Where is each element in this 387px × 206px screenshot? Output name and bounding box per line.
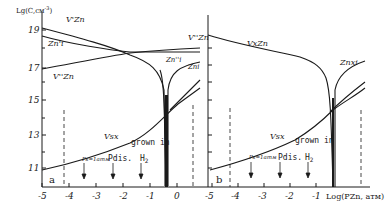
label-vsx-b: Vsx: [270, 132, 285, 141]
x-axis-label: Log(PZn, атм): [326, 192, 384, 201]
ytick-15: 15: [28, 95, 40, 105]
ytick-13: 13: [28, 130, 40, 140]
label-vsx-a: Vsx: [104, 132, 119, 141]
label-ps-b: Ps=1атм: [248, 154, 277, 160]
label-vzn-prime: V'Zn: [66, 15, 85, 24]
label-pdis-a: Pdis.: [108, 154, 132, 163]
label-vzn-dprime-right: V''Zn: [188, 33, 209, 42]
y-axis-label: Lg(C,см-3): [16, 5, 52, 15]
arrow-ps-a: [82, 163, 86, 179]
xtick-b-m1: -1: [312, 191, 321, 201]
ytick-17: 17: [28, 63, 40, 73]
xtick-a-m1: -1: [146, 191, 155, 201]
label-vzn-dprime-left: V''Zn: [53, 72, 74, 81]
arrow-pdis-b: [278, 162, 282, 178]
x-ticks-a: [42, 183, 177, 187]
curve-vznx: [208, 35, 333, 187]
arrow-pdis-a: [111, 163, 115, 179]
label-pdis-b: Pdis.: [278, 153, 302, 162]
ytick-19: 19: [28, 25, 40, 35]
label-grown-in-b: grown in: [295, 136, 334, 145]
xtick-a-m2: -2: [119, 191, 128, 201]
curve-znix: [335, 61, 365, 187]
panel-label-b: b: [216, 174, 222, 185]
xtick-b-m2: -2: [285, 191, 294, 201]
xtick-a-m3: -3: [92, 191, 101, 201]
panel-b: -5 -4 -3 -2 -1 Log(PZn, атм) VxZn Znxi V…: [200, 15, 384, 201]
curve-zni-dprime: [168, 62, 200, 186]
xtick-b-m3: -3: [258, 191, 267, 201]
label-zni-dprime: Zn''i: [165, 56, 181, 64]
label-ps-a: Ps=1атм: [81, 156, 110, 162]
label-h2-a: H2: [140, 154, 149, 164]
arrow-h2-a: [139, 163, 143, 179]
curve-zni: [170, 80, 200, 110]
xtick-b-m4: -4: [231, 191, 240, 201]
ytick-11: 11: [28, 163, 39, 173]
panel-label-a: a: [49, 174, 55, 185]
defect-concentration-figure: 19 17 15 13 11 Lg(C,см-3) -5 -4 -3 -2 -1…: [0, 0, 387, 206]
x-ticks-b: [212, 183, 316, 187]
label-zni-prime: Zn'i: [47, 39, 64, 48]
panel-a: 19 17 15 13 11 Lg(C,см-3) -5 -4 -3 -2 -1…: [16, 5, 209, 201]
arrow-h2-b: [306, 162, 310, 178]
label-zni: Zni: [187, 63, 200, 71]
xtick-a-0: 0: [174, 191, 180, 201]
xtick-b-m5: -5: [205, 191, 214, 201]
label-znix: Znxi: [339, 58, 358, 67]
y-ticks: [42, 30, 46, 168]
label-h2-b: H2: [305, 153, 314, 163]
y-ticks-b: [208, 48, 212, 168]
curve-vzn-cusp-left: [160, 70, 165, 186]
label-vznx: VxZn: [247, 39, 268, 48]
label-grown-in-a: grown in: [131, 138, 170, 147]
arrow-ps-b: [249, 162, 253, 178]
xtick-a-m5: -5: [38, 191, 47, 201]
xtick-a-m4: -4: [65, 191, 74, 201]
